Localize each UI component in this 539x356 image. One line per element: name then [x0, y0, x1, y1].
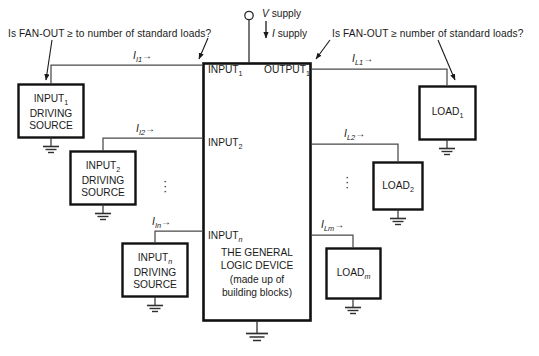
port-name: INPUT [208, 230, 239, 241]
current-arrow: → [355, 128, 365, 139]
i-supply-label: I supply [272, 28, 307, 39]
supply-open-circle-terminal [245, 11, 253, 19]
ds-name: INPUT [86, 160, 117, 171]
port-name: INPUT [208, 137, 239, 148]
ds-line-1: INPUT2 [72, 160, 134, 175]
load-line: LOAD2 [375, 180, 421, 195]
load1-ground-symbol [439, 140, 455, 155]
load-current-2-label: IL2→ [344, 128, 365, 142]
current-arrow: → [145, 123, 155, 134]
load2-ground-symbol [390, 210, 406, 225]
input-current-n-label: IIn→ [152, 216, 171, 230]
v-supply-label: V supply [262, 8, 301, 19]
ds-line-3: SOURCE [20, 120, 82, 132]
v-supply-symbol: V [262, 8, 269, 19]
port-label-input-2: INPUT2 [208, 137, 243, 151]
port-name: INPUT [208, 64, 239, 75]
load-current-1-label: IL1→ [352, 53, 373, 67]
ds-line-2: DRIVING [124, 267, 186, 279]
load-current-m-label: ILm→ [321, 219, 344, 233]
input-current-2-label: II2→ [136, 123, 155, 137]
load-line: LOAD1 [421, 106, 474, 121]
loadm-label: LOADm [328, 267, 379, 282]
ds-subscript: 1 [64, 98, 68, 107]
current-subscript: L1 [355, 58, 363, 67]
port-subscript: n [239, 235, 243, 244]
wire-inputn-to-port [155, 231, 203, 243]
ds-line-1: INPUTn [124, 252, 186, 267]
wire-output-to-load2 [311, 144, 398, 162]
current-arrow: → [142, 50, 152, 61]
port-label-output-1: OUTPUT1 [264, 64, 310, 78]
load1-label: LOAD1 [421, 106, 474, 121]
load-name: LOAD [337, 267, 365, 278]
i-supply-symbol: I [272, 28, 275, 39]
ds-line-2: DRIVING [20, 108, 82, 120]
loadm-ground-symbol [345, 299, 361, 314]
wire-input1-to-port [51, 65, 203, 84]
input1-driving-source-label: INPUT1 DRIVING SOURCE [20, 93, 82, 133]
fan-out-loading-diagram: Is FAN-OUT ≥ to number of standard loads… [0, 0, 539, 356]
inputn-ground-symbol [147, 297, 163, 312]
inputn-driving-source-label: INPUTn DRIVING SOURCE [124, 252, 186, 292]
wire-output-to-loadm [311, 235, 353, 248]
ds-name: INPUT [138, 252, 169, 263]
load-subscript: 1 [459, 111, 463, 120]
ds-subscript: 2 [116, 165, 120, 174]
supply-terminal-stem [245, 11, 253, 63]
load-name: LOAD [382, 180, 410, 191]
ellipsis-dot: · [345, 184, 349, 189]
i-supply-word: supply [278, 28, 307, 39]
current-arrow: → [334, 219, 344, 230]
right-question-leader-to-output [316, 40, 330, 59]
current-subscript: Lm [324, 224, 334, 233]
current-arrow: → [161, 216, 171, 227]
input2-driving-source-label: INPUT2 DRIVING SOURCE [72, 160, 134, 200]
port-label-input-1: INPUT1 [208, 64, 243, 78]
input2-ground-symbol [95, 205, 111, 220]
device-line-2: LOGIC DEVICE [206, 259, 308, 272]
ellipsis-dot: · [163, 188, 167, 193]
left-question-leader-to-device [199, 38, 208, 59]
right-fanout-question: Is FAN-OUT ≥ number of standard loads? [332, 28, 524, 39]
current-subscript: L2 [347, 133, 355, 142]
wire-input2-to-port [103, 138, 203, 151]
device-ground-symbol [246, 321, 268, 341]
input-current-1-label: II1→ [133, 50, 152, 64]
ds-line-2: DRIVING [72, 175, 134, 187]
device-line-3: (made up of [206, 273, 308, 286]
input1-ground-symbol [43, 138, 59, 153]
port-label-input-n: INPUTn [208, 230, 243, 244]
ds-line-3: SOURCE [124, 279, 186, 291]
vertical-ellipsis-loads: · · · [345, 174, 349, 190]
general-logic-device-label: THE GENERAL LOGIC DEVICE (made up of bui… [206, 246, 308, 299]
ds-name: INPUT [34, 93, 65, 104]
load-subscript: 2 [410, 185, 414, 194]
load-line: LOADm [328, 267, 379, 282]
ds-line-3: SOURCE [72, 187, 134, 199]
port-subscript: 1 [239, 69, 243, 78]
load-name: LOAD [432, 106, 460, 117]
left-fanout-question: Is FAN-OUT ≥ to number of standard loads… [8, 28, 211, 39]
device-line-4: building blocks) [206, 286, 308, 299]
device-line-1: THE GENERAL [206, 246, 308, 259]
vertical-ellipsis-inputs: · · · [163, 178, 167, 194]
v-supply-word: supply [272, 8, 301, 19]
load2-label: LOAD2 [375, 180, 421, 195]
port-name: OUTPUT [264, 64, 306, 75]
ds-subscript: n [168, 257, 172, 266]
wire-output-to-load1 [311, 69, 447, 86]
current-arrow: → [363, 53, 373, 64]
load-subscript: m [364, 272, 370, 281]
port-subscript: 2 [239, 142, 243, 151]
port-subscript: 1 [306, 69, 310, 78]
ds-line-1: INPUT1 [20, 93, 82, 108]
